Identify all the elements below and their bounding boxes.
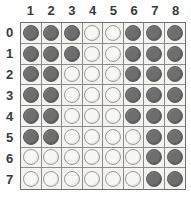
board-cell-3-4[interactable]: [83, 85, 104, 106]
dark-disc-icon: [167, 108, 183, 124]
board-cell-4-1[interactable]: [21, 106, 42, 127]
dark-disc-icon: [125, 87, 141, 103]
board-cell-3-7[interactable]: [144, 85, 165, 106]
board-cell-5-1[interactable]: [21, 127, 42, 148]
light-disc-icon: [105, 108, 121, 124]
dark-disc-icon: [167, 171, 183, 187]
board-cell-4-5[interactable]: [103, 106, 124, 127]
dark-disc-icon: [64, 25, 80, 41]
light-disc-icon: [125, 129, 141, 145]
board-cell-6-6[interactable]: [124, 148, 145, 169]
board-cell-3-5[interactable]: [103, 85, 124, 106]
board-cell-4-7[interactable]: [144, 106, 165, 127]
board-cell-1-4[interactable]: [83, 44, 104, 65]
board-cell-4-3[interactable]: [62, 106, 83, 127]
light-disc-icon: [84, 25, 100, 41]
dark-disc-icon: [43, 108, 59, 124]
column-header-row: 12345678: [20, 0, 186, 22]
board-cell-7-1[interactable]: [21, 168, 42, 189]
board-cell-3-6[interactable]: [124, 85, 145, 106]
column-header-6: 6: [124, 0, 145, 22]
board-cell-5-5[interactable]: [103, 127, 124, 148]
dark-disc-icon: [43, 25, 59, 41]
board-cell-3-2[interactable]: [42, 85, 63, 106]
board-cell-5-6[interactable]: [124, 127, 145, 148]
board-cell-3-3[interactable]: [62, 85, 83, 106]
board-cell-0-7[interactable]: [144, 23, 165, 44]
light-disc-icon: [125, 149, 141, 165]
dark-disc-icon: [43, 66, 59, 82]
board-cell-5-4[interactable]: [83, 127, 104, 148]
light-disc-icon: [105, 46, 121, 62]
board-cell-4-8[interactable]: [165, 106, 186, 127]
board-cell-0-8[interactable]: [165, 23, 186, 44]
board-cell-7-3[interactable]: [62, 168, 83, 189]
dark-disc-icon: [23, 129, 39, 145]
board-cell-1-8[interactable]: [165, 44, 186, 65]
dark-disc-icon: [146, 87, 162, 103]
light-disc-icon: [64, 108, 80, 124]
light-disc-icon: [64, 87, 80, 103]
board-cell-1-6[interactable]: [124, 44, 145, 65]
board-cell-7-8[interactable]: [165, 168, 186, 189]
board-cell-2-1[interactable]: [21, 65, 42, 86]
row-header-column: 01234567: [0, 22, 20, 190]
board-cell-2-7[interactable]: [144, 65, 165, 86]
board-cell-2-6[interactable]: [124, 65, 145, 86]
board-cell-6-3[interactable]: [62, 148, 83, 169]
dark-disc-icon: [125, 66, 141, 82]
board-cell-4-4[interactable]: [83, 106, 104, 127]
dark-disc-icon: [23, 66, 39, 82]
board-cell-5-3[interactable]: [62, 127, 83, 148]
board-cell-3-8[interactable]: [165, 85, 186, 106]
dark-disc-icon: [23, 87, 39, 103]
board-cell-1-1[interactable]: [21, 44, 42, 65]
board-cell-0-1[interactable]: [21, 23, 42, 44]
board-cell-1-3[interactable]: [62, 44, 83, 65]
dark-disc-icon: [43, 129, 59, 145]
board-cell-0-2[interactable]: [42, 23, 63, 44]
board-cell-0-6[interactable]: [124, 23, 145, 44]
board-cell-7-5[interactable]: [103, 168, 124, 189]
light-disc-icon: [84, 66, 100, 82]
board-cell-1-2[interactable]: [42, 44, 63, 65]
reversi-board-widget: 12345678 01234567: [0, 0, 191, 198]
dark-disc-icon: [64, 46, 80, 62]
board-cell-7-2[interactable]: [42, 168, 63, 189]
board-cell-5-2[interactable]: [42, 127, 63, 148]
board-cell-0-5[interactable]: [103, 23, 124, 44]
board-cell-6-5[interactable]: [103, 148, 124, 169]
board-cell-1-5[interactable]: [103, 44, 124, 65]
dark-disc-icon: [167, 46, 183, 62]
column-header-3: 3: [62, 0, 83, 22]
dark-disc-icon: [125, 25, 141, 41]
board-cell-3-1[interactable]: [21, 85, 42, 106]
board-cell-7-7[interactable]: [144, 168, 165, 189]
light-disc-icon: [84, 171, 100, 187]
board-cell-5-7[interactable]: [144, 127, 165, 148]
row-header-1: 1: [0, 43, 20, 64]
board-cell-6-1[interactable]: [21, 148, 42, 169]
light-disc-icon: [84, 129, 100, 145]
board-cell-2-2[interactable]: [42, 65, 63, 86]
board-cell-7-4[interactable]: [83, 168, 104, 189]
board-cell-7-6[interactable]: [124, 168, 145, 189]
board-cell-2-8[interactable]: [165, 65, 186, 86]
board-cell-2-3[interactable]: [62, 65, 83, 86]
board-cell-4-2[interactable]: [42, 106, 63, 127]
light-disc-icon: [105, 66, 121, 82]
board-cell-6-8[interactable]: [165, 148, 186, 169]
board-cell-2-4[interactable]: [83, 65, 104, 86]
board-cell-0-3[interactable]: [62, 23, 83, 44]
board-grid[interactable]: [20, 22, 186, 190]
board-cell-2-5[interactable]: [103, 65, 124, 86]
light-disc-icon: [64, 149, 80, 165]
board-cell-6-7[interactable]: [144, 148, 165, 169]
board-cell-6-2[interactable]: [42, 148, 63, 169]
board-cell-0-4[interactable]: [83, 23, 104, 44]
board-cell-1-7[interactable]: [144, 44, 165, 65]
dark-disc-icon: [146, 129, 162, 145]
board-cell-5-8[interactable]: [165, 127, 186, 148]
board-cell-6-4[interactable]: [83, 148, 104, 169]
board-cell-4-6[interactable]: [124, 106, 145, 127]
